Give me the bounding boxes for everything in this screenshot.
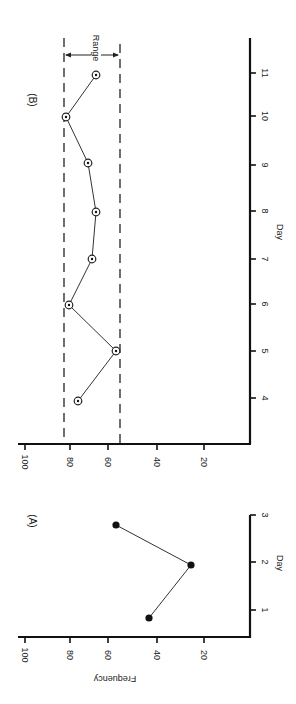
panel-a-series-line (116, 525, 191, 618)
panel-b-label: (B) (27, 93, 38, 106)
tick-label-1: 1 (260, 607, 270, 612)
data-point-day-7 (88, 255, 96, 263)
tick-label-6: 6 (260, 301, 270, 306)
panel-b-day-axis-title: Day (275, 224, 285, 241)
tick-label-3: 3 (260, 512, 270, 517)
tick-label-60: 60 (103, 457, 113, 467)
tick-label-80: 80 (65, 457, 75, 467)
tick-label-80: 80 (65, 650, 75, 660)
range-label: Range (91, 35, 101, 62)
tick-label-11: 11 (260, 68, 270, 77)
tick-label-60: 60 (103, 650, 113, 660)
data-point-day-1 (145, 614, 152, 621)
panel-b: (B) 11 10 9 8 7 6 5 4 Day (18, 35, 285, 470)
data-point-day-10 (62, 113, 70, 121)
rotated-line-chart: (B) 11 10 9 8 7 6 5 4 Day (0, 0, 296, 704)
panel-b-series-line (66, 75, 116, 401)
data-point-day-9 (84, 159, 92, 167)
tick-label-8: 8 (260, 208, 270, 213)
panel-a-day-axis-title: Day (275, 555, 285, 572)
tick-label-5: 5 (260, 348, 270, 353)
tick-label-40: 40 (152, 457, 162, 467)
panel-a-label: (A) (27, 514, 38, 527)
tick-label-100: 100 (20, 454, 30, 469)
data-point-day-2 (187, 561, 194, 568)
panel-b-markers (62, 71, 120, 405)
tick-label-2: 2 (260, 559, 270, 564)
data-point-day-8 (92, 208, 100, 216)
panel-b-frequency-ticks: 100 80 60 40 20 (20, 444, 209, 470)
tick-label-7: 7 (260, 256, 270, 261)
tick-label-10: 10 (260, 111, 270, 121)
panel-a-markers (112, 521, 194, 621)
panel-a-frequency-ticks: 100 80 60 40 20 (20, 637, 209, 663)
panel-a-day-ticks: 3 2 1 (250, 512, 270, 612)
tick-label-40: 40 (152, 650, 162, 660)
tick-label-9: 9 (260, 162, 270, 167)
data-point-day-11 (92, 71, 100, 79)
frequency-axis-title: Frequency (93, 674, 136, 684)
tick-label-4: 4 (260, 395, 270, 400)
tick-label-100: 100 (20, 647, 30, 662)
range-annotation: Range (65, 35, 119, 62)
panel-b-day-ticks: 11 10 9 8 7 6 5 4 (250, 68, 270, 400)
data-point-day-3 (112, 521, 119, 528)
data-point-day-6 (65, 301, 73, 309)
tick-label-20: 20 (199, 650, 209, 660)
panel-a: (A) 3 2 1 Day 100 80 60 40 20 Frequency (18, 512, 285, 684)
data-point-day-5 (112, 347, 120, 355)
tick-label-20: 20 (199, 457, 209, 467)
data-point-day-4 (74, 397, 82, 405)
